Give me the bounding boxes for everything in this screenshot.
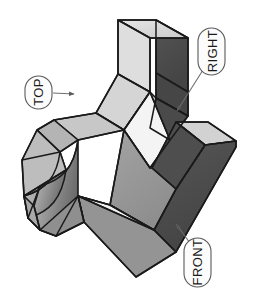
callout-top[interactable]: TOP: [25, 76, 74, 109]
leader-line-top: [53, 93, 74, 94]
callout-label-front: FRONT: [190, 239, 205, 286]
callout-label-right: RIGHT: [205, 30, 220, 72]
callout-label-top: TOP: [31, 78, 46, 106]
isometric-figure: TOP RIGHT FRONT: [0, 0, 256, 301]
